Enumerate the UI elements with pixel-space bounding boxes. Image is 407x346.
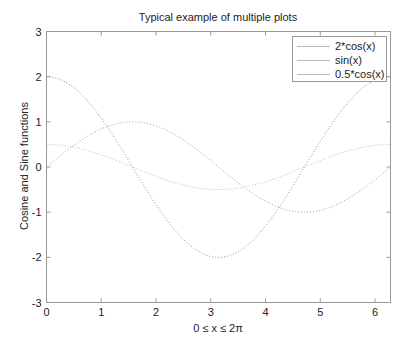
legend-line-icon — [297, 74, 330, 75]
y-tick-label: -3 — [32, 297, 42, 309]
x-tick-label: 1 — [98, 306, 104, 318]
y-tick-label: 3 — [35, 26, 41, 38]
x-axis-label: 0 ≤ x ≤ 2π — [46, 322, 390, 334]
y-tick-label: -2 — [32, 251, 42, 263]
y-tick-label: 0 — [35, 161, 41, 173]
series-line — [47, 122, 391, 212]
x-tick-label: 0 — [43, 306, 49, 318]
legend-line-icon — [297, 60, 330, 61]
series-layer — [47, 77, 391, 258]
legend-line-icon — [297, 46, 330, 47]
chart-title: Typical example of multiple plots — [46, 11, 390, 23]
legend-label: 0.5*cos(x) — [335, 67, 385, 81]
x-tick-label: 2 — [153, 306, 159, 318]
legend-label: sin(x) — [335, 53, 362, 67]
y-tick-label: 1 — [35, 116, 41, 128]
x-tick-label: 5 — [317, 306, 323, 318]
y-tick-label: 2 — [35, 71, 41, 83]
x-tick-label: 3 — [208, 306, 214, 318]
x-tick-label: 4 — [262, 306, 268, 318]
x-tick-label: 6 — [372, 306, 378, 318]
legend: 2*cos(x) sin(x) 0.5*cos(x) — [292, 36, 387, 82]
legend-label: 2*cos(x) — [335, 39, 375, 53]
y-axis-label: Cosine and Sine functions — [18, 102, 30, 230]
y-tick-label: -1 — [32, 206, 42, 218]
